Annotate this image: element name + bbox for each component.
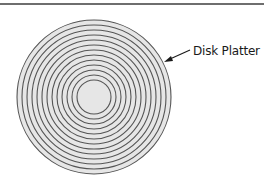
arrowhead-icon	[164, 56, 173, 62]
disk-platter-diagram	[0, 0, 264, 190]
platter-surface	[17, 20, 171, 174]
callout-arrow	[164, 50, 190, 62]
disk-platter	[17, 20, 171, 174]
disk-platter-label: Disk Platter	[193, 44, 260, 58]
